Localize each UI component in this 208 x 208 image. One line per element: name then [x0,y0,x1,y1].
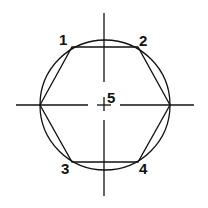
vertex-label-3: 3 [61,161,69,176]
vertex-label-1: 1 [59,32,67,47]
center-label-5: 5 [107,90,115,105]
vertex-label-4: 4 [139,161,147,176]
vertex-label-2: 2 [139,33,147,48]
diagram-canvas: 1 2 3 4 5 [0,0,208,208]
hexagon-diagram [0,0,208,208]
